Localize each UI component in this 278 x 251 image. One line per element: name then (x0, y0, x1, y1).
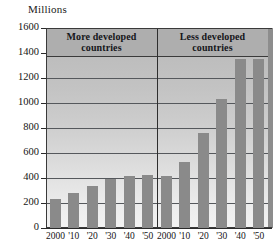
x-tick-label: '10 (176, 231, 195, 241)
y-tick-label-1400: 1400 (18, 47, 39, 58)
y-tick-label-1200: 1200 (18, 72, 39, 83)
bar (179, 162, 190, 228)
bar (161, 176, 172, 228)
x-tick-label: '20 (83, 231, 102, 241)
bar (216, 99, 227, 228)
x-tick-label: '20 (194, 231, 213, 241)
bar (198, 133, 209, 228)
bar (142, 175, 153, 228)
y-tick-label-400: 400 (23, 172, 39, 183)
y-tick-label-200: 200 (23, 197, 39, 208)
population-bar-chart: Millions 02004006008001000120014001600 M… (0, 0, 278, 251)
bar (253, 59, 264, 228)
y-tick-label-1600: 1600 (18, 22, 39, 33)
x-tick-label: '40 (231, 231, 250, 241)
bar (50, 199, 61, 228)
x-tick-label: '30 (102, 231, 121, 241)
y-tick-label-800: 800 (23, 122, 39, 133)
bar (124, 176, 135, 228)
bar (68, 193, 79, 228)
x-tick-label: '10 (65, 231, 84, 241)
y-tick-label-600: 600 (23, 147, 39, 158)
bars-layer (46, 28, 268, 228)
bar (235, 59, 246, 228)
y-tick-label-0: 0 (34, 222, 39, 233)
x-tick-label: 2000 (46, 231, 65, 241)
y-tick-label-1000: 1000 (18, 97, 39, 108)
x-tick-label: '30 (213, 231, 232, 241)
bar (105, 179, 116, 228)
x-tick-label: '50 (139, 231, 158, 241)
x-tick-label: '50 (250, 231, 269, 241)
y-axis-unit-caption: Millions (28, 3, 67, 15)
x-axis-labels: 2000'10'20'30'40'502000'10'20'30'40'50 (46, 231, 268, 249)
x-tick-label: '40 (120, 231, 139, 241)
bar (87, 186, 98, 229)
x-tick-label: 2000 (157, 231, 176, 241)
x-axis-line (41, 228, 272, 229)
